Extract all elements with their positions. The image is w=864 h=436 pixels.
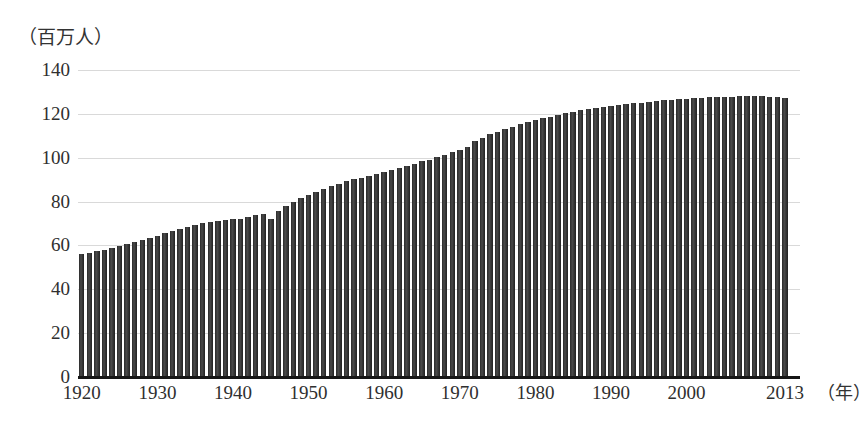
bar-1958 bbox=[366, 176, 371, 377]
bar-1968 bbox=[442, 155, 447, 377]
y-tick-140: 140 bbox=[30, 60, 70, 79]
bar-1931 bbox=[162, 233, 167, 377]
bar-1948 bbox=[291, 202, 296, 377]
bar-1986 bbox=[578, 110, 583, 377]
bar-2004 bbox=[714, 97, 719, 377]
bar-1941 bbox=[238, 219, 243, 377]
bar-1925 bbox=[117, 246, 122, 377]
bar-1960 bbox=[381, 172, 386, 377]
y-tick-120: 120 bbox=[30, 104, 70, 123]
bar-1973 bbox=[480, 138, 485, 377]
x-tick-1980: 1980 bbox=[516, 382, 554, 404]
x-axis-unit-label: （年） bbox=[817, 382, 864, 404]
x-tick-1940: 1940 bbox=[214, 382, 252, 404]
bar-1932 bbox=[170, 231, 175, 377]
bar-2003 bbox=[707, 97, 712, 377]
bar-1924 bbox=[109, 248, 114, 377]
x-tick-1950: 1950 bbox=[290, 382, 328, 404]
x-tick-1920: 1920 bbox=[63, 382, 101, 404]
bar-1951 bbox=[313, 192, 318, 377]
bar-1975 bbox=[495, 132, 500, 377]
bar-1953 bbox=[329, 186, 334, 377]
bar-1987 bbox=[586, 109, 591, 377]
x-tick-1990: 1990 bbox=[592, 382, 630, 404]
y-axis-tick-labels: 020406080100120140 bbox=[20, 70, 70, 377]
bar-1949 bbox=[298, 198, 303, 377]
bar-series bbox=[78, 70, 800, 377]
bar-1969 bbox=[450, 152, 455, 377]
bar-1970 bbox=[457, 150, 462, 377]
bar-1990 bbox=[608, 106, 613, 377]
bar-1933 bbox=[177, 229, 182, 377]
bar-1934 bbox=[185, 227, 190, 377]
bar-1937 bbox=[208, 222, 213, 377]
bar-1926 bbox=[124, 244, 129, 377]
bar-2008 bbox=[744, 96, 749, 377]
bar-1978 bbox=[518, 124, 523, 377]
bar-1938 bbox=[215, 221, 220, 377]
bar-1984 bbox=[563, 113, 568, 377]
bar-1946 bbox=[276, 211, 281, 377]
y-tick-40: 40 bbox=[30, 279, 70, 298]
bar-1964 bbox=[412, 164, 417, 377]
bar-2010 bbox=[759, 96, 764, 377]
bar-1977 bbox=[510, 127, 515, 377]
bar-1927 bbox=[132, 242, 137, 377]
bar-2013 bbox=[782, 98, 787, 377]
bar-1940 bbox=[230, 219, 235, 377]
bar-1920 bbox=[79, 254, 84, 377]
bar-1971 bbox=[465, 147, 470, 377]
bar-1935 bbox=[192, 225, 197, 377]
bar-1962 bbox=[397, 168, 402, 377]
x-tick-2000: 2000 bbox=[668, 382, 706, 404]
plot-area bbox=[78, 70, 800, 377]
bar-1956 bbox=[351, 179, 356, 377]
bar-1974 bbox=[487, 134, 492, 377]
bar-1996 bbox=[654, 101, 659, 377]
y-tick-20: 20 bbox=[30, 323, 70, 342]
bar-1944 bbox=[261, 214, 266, 377]
bar-1942 bbox=[245, 217, 250, 377]
bar-1966 bbox=[427, 160, 432, 377]
bar-1995 bbox=[646, 102, 651, 377]
bar-1989 bbox=[601, 107, 606, 377]
x-tick-1930: 1930 bbox=[138, 382, 176, 404]
bar-1991 bbox=[616, 105, 621, 377]
bar-2011 bbox=[767, 97, 772, 377]
bar-1957 bbox=[359, 178, 364, 377]
bar-1947 bbox=[283, 206, 288, 377]
bar-2007 bbox=[737, 96, 742, 377]
bar-1959 bbox=[374, 174, 379, 377]
bar-1998 bbox=[669, 100, 674, 377]
bar-1999 bbox=[676, 99, 681, 377]
y-tick-100: 100 bbox=[30, 148, 70, 167]
bar-1985 bbox=[570, 112, 575, 377]
bar-2001 bbox=[691, 98, 696, 377]
bar-1992 bbox=[623, 104, 628, 377]
bar-1955 bbox=[344, 181, 349, 377]
bar-2006 bbox=[729, 97, 734, 377]
x-tick-1960: 1960 bbox=[365, 382, 403, 404]
x-tick-1970: 1970 bbox=[441, 382, 479, 404]
bar-1922 bbox=[94, 251, 99, 377]
bar-1997 bbox=[661, 100, 666, 377]
bar-2012 bbox=[775, 97, 780, 377]
bar-1930 bbox=[155, 236, 160, 377]
bar-1972 bbox=[472, 141, 477, 377]
bar-1961 bbox=[389, 170, 394, 377]
bar-1979 bbox=[525, 122, 530, 377]
bar-2005 bbox=[722, 97, 727, 377]
bar-2002 bbox=[699, 98, 704, 377]
bar-1954 bbox=[336, 184, 341, 377]
bar-1945 bbox=[268, 219, 273, 377]
bar-1950 bbox=[306, 195, 311, 377]
bar-1983 bbox=[555, 115, 560, 377]
bar-1963 bbox=[404, 166, 409, 377]
bar-2009 bbox=[752, 96, 757, 377]
bar-1936 bbox=[200, 223, 205, 377]
bar-1952 bbox=[321, 189, 326, 377]
bar-1921 bbox=[87, 253, 92, 377]
y-tick-60: 60 bbox=[30, 235, 70, 254]
y-axis-unit-label: （百万人） bbox=[18, 22, 113, 49]
